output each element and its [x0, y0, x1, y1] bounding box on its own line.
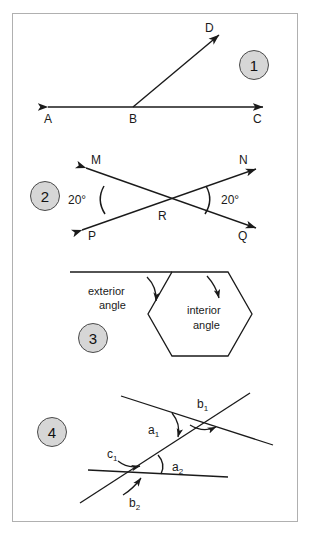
label-a2-subscript: 2	[179, 467, 183, 476]
panel-1-figure	[48, 35, 263, 107]
label-point-p: P	[88, 230, 96, 242]
b2-arrow	[123, 478, 141, 495]
lower-line	[88, 470, 228, 477]
exterior-angle-arrow	[147, 277, 156, 301]
label-exterior-angle-line2: angle	[99, 300, 126, 311]
label-b1-base: b	[197, 397, 204, 411]
label-interior-angle-line1: interior	[187, 305, 221, 316]
label-exterior-angle-line1: exterior	[88, 286, 125, 297]
label-a1-subscript: 1	[155, 430, 159, 439]
label-point-d: D	[205, 22, 214, 34]
label-a1-base: a	[148, 423, 155, 437]
label-point-a: A	[44, 113, 52, 125]
panel-badge-2: 2	[30, 181, 60, 211]
panel-badge-3: 3	[78, 323, 108, 353]
label-b1-subscript: 1	[204, 404, 208, 413]
label-point-m: M	[91, 154, 101, 166]
label-c1: c1	[107, 448, 117, 463]
label-point-r: R	[158, 210, 167, 222]
label-b2: b2	[129, 497, 140, 512]
label-point-n: N	[239, 154, 248, 166]
figure-sheet: 1 A B C D 2 M N P Q R 20° 20° 3 exterior…	[0, 0, 312, 541]
interior-angle-arrow	[207, 276, 219, 298]
label-point-q: Q	[238, 230, 247, 242]
label-c1-subscript: 1	[113, 454, 117, 463]
label-a2-base: a	[172, 460, 179, 474]
label-b1: b1	[197, 398, 208, 413]
label-a1: a1	[148, 424, 159, 439]
label-interior-angle-line2: angle	[193, 320, 220, 331]
ray-bd	[133, 35, 219, 107]
a1-arrow	[172, 413, 179, 437]
angle-arc-left	[100, 186, 105, 214]
label-point-b: B	[129, 113, 137, 125]
label-b2-subscript: 2	[136, 503, 140, 512]
label-point-c: C	[253, 113, 262, 125]
panel-badge-4: 4	[37, 417, 67, 447]
label-angle-left: 20°	[68, 194, 86, 206]
a2-angle-arc	[158, 455, 163, 474]
label-a2: a2	[172, 461, 183, 476]
label-angle-right: 20°	[221, 194, 239, 206]
panel-badge-1: 1	[239, 50, 269, 80]
geometry-drawing	[0, 0, 312, 541]
label-b2-base: b	[129, 496, 136, 510]
transversal	[80, 393, 250, 503]
